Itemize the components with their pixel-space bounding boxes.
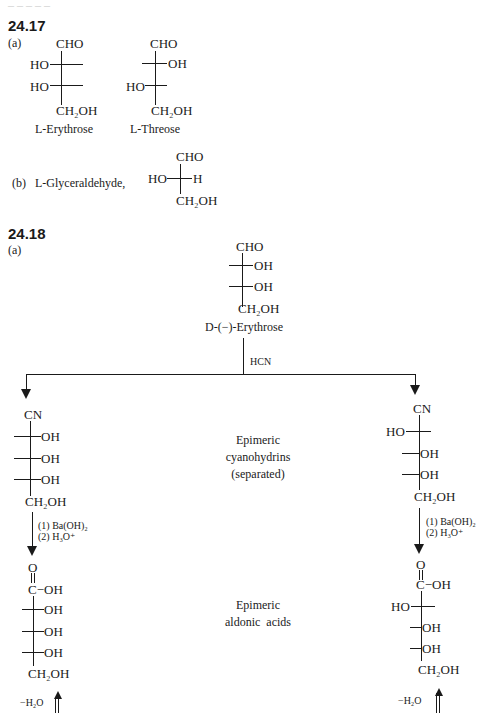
start-oh-2: OH [254,280,273,293]
start-ch2oh: CH₂OH [238,302,279,315]
acid-right-bond-1 [411,606,435,607]
arrow-down-right-icon [410,385,420,395]
cyano-right-bond-3 [402,474,419,475]
cyano-right-ho-1: HO [386,425,405,438]
cyanohydrin-caption: Epimeric cyanohydrins (separated) [208,432,308,483]
dehydration-right-label: −H₂O [398,695,422,706]
part-b-label: (b) [12,176,26,191]
right-step-reagent-1: (1) Ba(OH)₂ [426,516,476,527]
start-name: D-(−)-Erythrose [205,320,283,335]
glyceraldehyde-ch2oh: CH₂OH [176,194,217,207]
glyceraldehyde-bond [167,178,192,179]
acid-left-bond-1 [22,609,44,610]
arrow-up-right-icon [435,688,443,696]
left-step-reagents: (1) Ba(OH)₂ (2) H₃O⁺ [38,520,88,542]
start-backbone [242,253,243,307]
glyceraldehyde-ho: HO [148,172,167,185]
hcn-reagent: HCN [250,356,271,367]
acid-right-o: O [416,558,425,571]
right-up-line-a [436,693,437,713]
cyano-left-bond-1 [14,436,41,437]
acid-right-bond-3 [410,648,421,649]
acid-right-ho-1: HO [391,600,410,613]
threose-name: L-Threose [130,122,180,137]
right-step-reagent-2: (2) H₃O⁺ [426,527,476,538]
cyano-right-bond-1 [406,431,431,432]
cyano-left-oh-2: OH [41,452,60,465]
start-oh-1: OH [254,259,273,272]
erythrose-backbone [61,51,62,105]
acid-left-o: O [28,561,37,574]
cyano-left-ch2oh: CH₂OH [25,495,66,508]
right-step-reagents: (1) Ba(OH)₂ (2) H₃O⁺ [426,516,476,538]
acid-right-oh-3: OH [422,642,441,655]
left-step-reagent-1: (1) Ba(OH)₂ [38,520,88,531]
dehydration-left-label: −H₂O [20,697,44,708]
acid-left-oh-3: OH [44,646,63,659]
erythrose-bond-1 [50,64,83,65]
acid-right-oh-2: OH [422,621,441,634]
acid-right-ch2oh: CH₂OH [418,663,459,676]
erythrose-ch2oh: CH₂OH [56,104,97,117]
cyanohydrin-caption-line-2: cyanohydrins [208,449,308,466]
start-bond-1 [229,265,253,266]
threose-ho-2: HO [126,80,145,93]
acid-left-bond-3 [22,652,44,653]
section-number-24-17: 24.17 [8,17,46,34]
left-up-line-b [58,697,59,713]
acid-left-ch2oh: CH₂OH [28,667,69,680]
glyceraldehyde-cho: CHO [176,150,203,163]
erythrose-name: L-Erythrose [35,122,93,137]
arrow-down-right-step-icon [414,544,424,554]
acid-left-oh-1: OH [44,603,63,616]
cyano-right-bond-2 [402,453,419,454]
cyano-right-cn: CN [413,402,431,415]
threose-cho: CHO [150,37,177,50]
left-up-line-a [55,697,56,713]
cyano-right-oh-2: OH [420,447,439,460]
acid-left-carbonyl: C−OH [28,583,63,596]
erythrose-bond-2 [50,85,83,86]
right-step-arrow-stem [419,508,420,546]
glyceraldehyde-backbone [180,164,181,194]
cyanohydrin-caption-line-1: Epimeric [208,432,308,449]
start-cho: CHO [236,240,263,253]
left-step-reagent-2: (2) H₃O⁺ [38,531,88,542]
arrow-down-left-step-icon [27,546,37,556]
cyano-right-ch2oh: CH₂OH [414,490,455,503]
start-bond-2 [229,286,253,287]
cyano-right-oh-3: OH [420,468,439,481]
glyceraldehyde-h: H [193,172,202,185]
acid-left-oh-2: OH [44,625,63,638]
threose-bond-1 [142,63,167,64]
threose-backbone [155,51,156,105]
cyano-left-bond-2 [14,458,41,459]
threose-bond-2 [145,85,167,86]
acid-right-bond-2 [410,627,421,628]
part-a-label: (a) [8,36,21,51]
left-step-arrow-stem [32,512,33,547]
cyano-left-oh-3: OH [41,473,60,486]
aldonic-caption-line-1: Epimeric [208,597,308,614]
cyano-left-oh-1: OH [41,430,60,443]
hcn-arrow-stem [243,338,244,374]
cyano-left-bond-3 [14,479,41,480]
acid-right-carbonyl: C−OH [416,578,451,591]
threose-oh-1: OH [168,57,187,70]
erythrose-cho: CHO [56,37,83,50]
part-a-label-2418: (a) [8,243,21,258]
arrow-down-left-icon [21,389,31,399]
glyceraldehyde-label: L-Glyceraldehyde, [35,176,125,191]
aldonic-caption-line-2: aldonic acids [208,614,308,631]
branch-line [26,374,416,375]
threose-ch2oh: CH₂OH [151,104,192,117]
section-number-24-18: 24.18 [8,225,46,242]
cyano-left-cn: CN [24,408,42,421]
aldonic-acid-caption: Epimeric aldonic acids [208,597,308,631]
erythrose-ho-2: HO [30,80,49,93]
cut-off-text: _ _ _ _ _ [8,0,50,9]
acid-left-bond-2 [22,631,44,632]
erythrose-ho-1: HO [30,58,49,71]
right-up-line-b [439,693,440,713]
arrow-up-left-icon [54,691,62,699]
